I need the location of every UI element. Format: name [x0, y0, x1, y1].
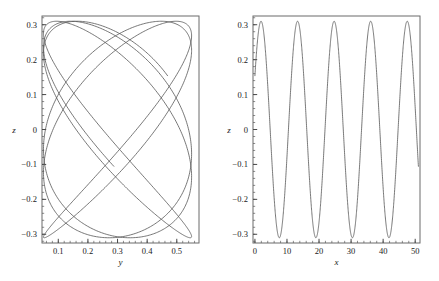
x-tick-label: 0.3 [112, 246, 123, 256]
y-tick-label: 0 [33, 125, 37, 135]
chart-panel-right: 01020304050−0.3−0.2−0.100.10.20.3xz [220, 0, 439, 281]
x-tick-label: 10 [283, 246, 292, 256]
y-tick-label: −0.1 [233, 159, 248, 169]
x-tick-label: 0.5 [171, 246, 182, 256]
x-tick-label: 50 [411, 246, 420, 256]
y-tick-label: 0.3 [26, 20, 37, 30]
figure-container: 0.10.20.30.40.5−0.3−0.2−0.100.10.20.3yz … [0, 0, 439, 281]
x-tick-label: 30 [347, 246, 356, 256]
x-tick-label: 40 [379, 246, 388, 256]
y-tick-label: −0.3 [233, 229, 248, 239]
x-tick-label: 0.4 [142, 246, 153, 256]
y-tick-label: −0.2 [22, 194, 37, 204]
right-plot-svg: 01020304050−0.3−0.2−0.100.10.20.3xz [220, 0, 439, 281]
y-tick-label: 0 [244, 125, 248, 135]
chart-panel-left: 0.10.20.30.40.5−0.3−0.2−0.100.10.20.3yz [0, 0, 219, 281]
y-axis-label: z [226, 125, 231, 135]
y-tick-label: 0.1 [237, 90, 248, 100]
y-tick-label: 0.1 [26, 90, 37, 100]
y-tick-label: 0.2 [237, 55, 248, 65]
oscillation-curve [255, 21, 418, 238]
x-tick-label: 20 [315, 246, 324, 256]
y-axis-label: z [11, 125, 16, 135]
y-tick-label: 0.3 [237, 20, 248, 30]
y-tick-label: 0.2 [26, 55, 37, 65]
x-axis-label: y [118, 257, 123, 267]
y-tick-label: −0.3 [22, 229, 37, 239]
x-axis-label: x [334, 257, 339, 267]
y-tick-label: −0.2 [233, 194, 248, 204]
x-tick-label: 0.1 [53, 246, 64, 256]
left-plot-svg: 0.10.20.30.40.5−0.3−0.2−0.100.10.20.3yz [0, 0, 219, 281]
phase-space-curve [43, 21, 191, 238]
y-tick-label: −0.1 [22, 159, 37, 169]
x-tick-label: 0.2 [83, 246, 94, 256]
x-tick-label: 0 [253, 246, 257, 256]
